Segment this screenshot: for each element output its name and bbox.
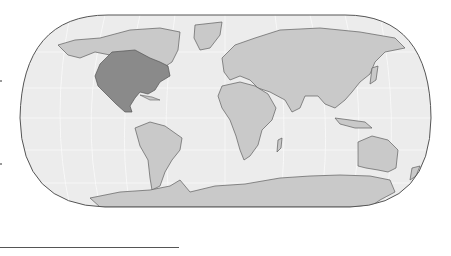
left-tick-mark [0, 163, 2, 165]
world-map-svg [0, 0, 451, 256]
world-map [0, 0, 451, 256]
left-tick-mark [0, 80, 2, 82]
bottom-rule [0, 247, 179, 248]
